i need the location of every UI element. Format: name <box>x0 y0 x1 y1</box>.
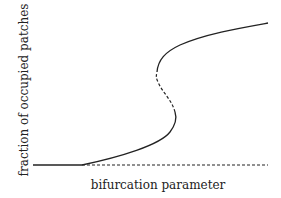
bifurcation-chart: fraction of occupied patches bifurcation… <box>0 0 281 198</box>
x-axis-label: bifurcation parameter <box>91 178 226 192</box>
plot-area <box>0 0 281 198</box>
y-axis-label: fraction of occupied patches <box>17 4 31 177</box>
upper-stable-branch <box>157 23 268 72</box>
unstable-middle-branch <box>156 72 175 112</box>
lower-stable-branch <box>82 112 176 165</box>
